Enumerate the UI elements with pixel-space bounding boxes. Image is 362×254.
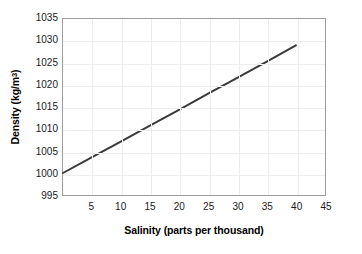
y-axis-tick-label: 995 — [24, 190, 58, 201]
y-axis-tick-label: 1020 — [24, 79, 58, 90]
x-axis-tick-label: 15 — [135, 201, 165, 212]
y-axis-tick-label: 1005 — [24, 146, 58, 157]
data-series-line — [63, 19, 325, 195]
y-axis-tick-label: 1035 — [24, 12, 58, 23]
y-axis-tick-label: 1015 — [24, 101, 58, 112]
x-axis-tick-labels: 51015202530354045 — [62, 201, 342, 215]
gridline-horizontal — [63, 175, 325, 176]
plot-area — [62, 18, 326, 196]
x-axis-tick-label: 10 — [106, 201, 136, 212]
gridline-vertical — [268, 19, 269, 195]
x-axis-tick-label: 5 — [76, 201, 106, 212]
gridline-horizontal — [63, 153, 325, 154]
gridline-horizontal — [63, 130, 325, 131]
y-axis-title-tail: ) — [9, 69, 21, 72]
x-axis-tick-label: 20 — [164, 201, 194, 212]
gridline-horizontal — [63, 64, 325, 65]
y-axis-title-base: Density (kg/m — [9, 77, 21, 145]
gridline-horizontal — [63, 86, 325, 87]
chart-figure: Density (kg/m3) 995100010051010101510201… — [0, 0, 362, 254]
x-axis-tick-label: 40 — [282, 201, 312, 212]
gridline-horizontal — [63, 41, 325, 42]
x-axis-tick-label: 35 — [252, 201, 282, 212]
gridline-vertical — [210, 19, 211, 195]
y-axis-tick-labels: 99510001005101010151020102510301035 — [22, 0, 58, 254]
x-axis-title: Salinity (parts per thousand) — [62, 224, 326, 236]
y-axis-tick-label: 1010 — [24, 123, 58, 134]
x-axis-tick-label: 30 — [223, 201, 253, 212]
gridline-vertical — [122, 19, 123, 195]
gridline-vertical — [239, 19, 240, 195]
gridline-vertical — [298, 19, 299, 195]
y-axis-tick-label: 1000 — [24, 168, 58, 179]
y-axis-tick-label: 1030 — [24, 34, 58, 45]
x-axis-tick-label: 45 — [311, 201, 341, 212]
gridline-horizontal — [63, 108, 325, 109]
y-axis-tick-label: 1025 — [24, 57, 58, 68]
gridline-vertical — [151, 19, 152, 195]
gridline-vertical — [180, 19, 181, 195]
x-axis-tick-label: 25 — [194, 201, 224, 212]
gridline-vertical — [92, 19, 93, 195]
